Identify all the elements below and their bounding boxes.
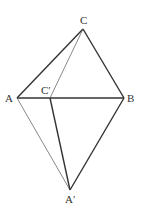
segment-CB — [83, 29, 124, 98]
label-A-prime: A′ — [65, 193, 75, 205]
segment-CC-prime — [50, 29, 83, 98]
segment-C-prime-A-prime — [50, 98, 70, 190]
label-C-prime: C′ — [41, 84, 51, 96]
label-C: C — [80, 14, 87, 26]
label-A: A — [5, 92, 13, 104]
geometry-diagram: C A C′ B A′ — [0, 0, 143, 205]
segment-AA-prime — [17, 98, 70, 190]
label-B: B — [127, 92, 134, 104]
segment-BA-prime — [70, 98, 124, 190]
